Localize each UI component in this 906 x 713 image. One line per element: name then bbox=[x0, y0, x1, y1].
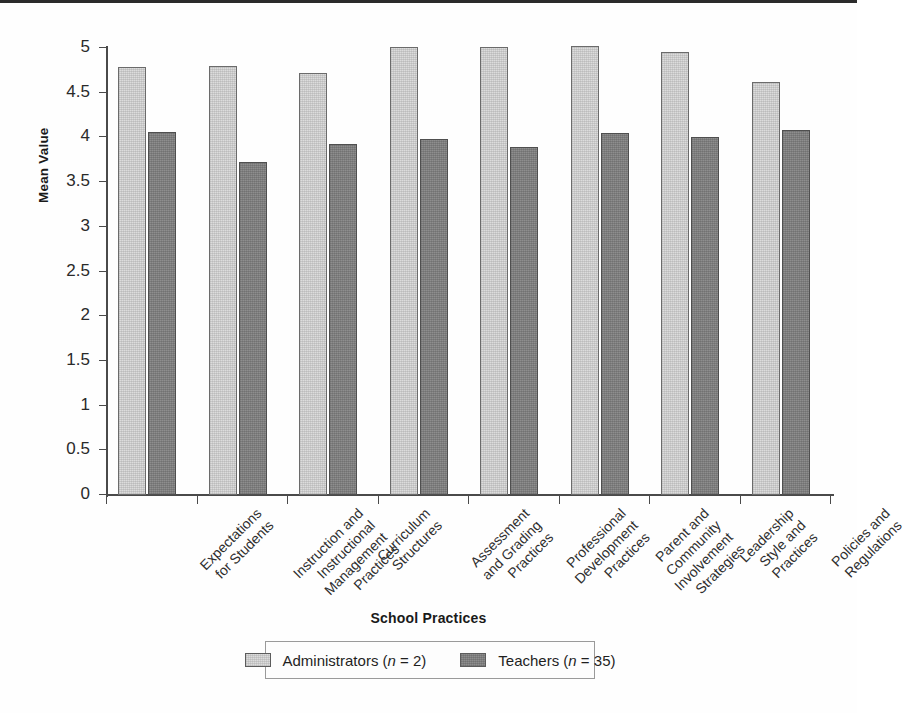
legend-entry[interactable]: Teachers (n = 35) bbox=[460, 652, 615, 669]
y-tick-label: 5 bbox=[81, 37, 90, 57]
x-category-label: Assessmentand GradingPractices bbox=[467, 505, 558, 596]
x-category-label: LeadershipStyle andPractices bbox=[736, 505, 821, 590]
x-tick bbox=[378, 495, 379, 504]
legend-swatch-admin bbox=[245, 653, 271, 667]
bar-teachers[interactable] bbox=[148, 132, 176, 495]
x-category-label: Policies andRegulations bbox=[829, 505, 906, 582]
y-tick-label: 1.5 bbox=[66, 350, 90, 370]
bar-group bbox=[390, 48, 448, 495]
bar-group bbox=[118, 48, 176, 495]
y-tick: 4.5 bbox=[99, 92, 106, 93]
bar-administrators[interactable] bbox=[661, 52, 689, 495]
bar-group bbox=[661, 48, 719, 495]
bar-administrators[interactable] bbox=[209, 66, 237, 495]
legend-swatch-teacher bbox=[460, 653, 486, 667]
bar-administrators[interactable] bbox=[390, 47, 418, 495]
chart-legend: Administrators (n = 2)Teachers (n = 35) bbox=[265, 641, 595, 679]
y-tick: 2 bbox=[99, 315, 106, 316]
y-tick-label: 0 bbox=[81, 484, 90, 504]
y-tick: 5 bbox=[99, 47, 106, 48]
bar-teachers[interactable] bbox=[691, 137, 719, 495]
bar-teachers[interactable] bbox=[329, 144, 357, 495]
y-tick: 4 bbox=[99, 136, 106, 137]
x-axis-title: School Practices bbox=[0, 610, 857, 626]
y-tick: 1 bbox=[99, 405, 106, 406]
bar-group bbox=[480, 48, 538, 495]
bar-administrators[interactable] bbox=[299, 73, 327, 495]
x-tick bbox=[740, 495, 741, 504]
y-tick-label: 2.5 bbox=[66, 261, 90, 281]
plot-area: 00.511.522.533.544.55 bbox=[106, 48, 830, 495]
x-tick bbox=[287, 495, 288, 504]
x-category-label: Parent andCommunityInvolvementStrategies bbox=[648, 505, 749, 606]
bar-group bbox=[752, 48, 810, 495]
y-tick-label: 4 bbox=[81, 126, 90, 146]
bar-group bbox=[571, 48, 629, 495]
x-tick bbox=[468, 495, 469, 504]
y-tick-label: 0.5 bbox=[66, 439, 90, 459]
legend-label: Teachers (n = 35) bbox=[498, 652, 615, 669]
x-tick bbox=[106, 495, 107, 504]
y-tick-label: 1 bbox=[81, 395, 90, 415]
y-tick: 2.5 bbox=[99, 271, 106, 272]
x-category-label: Expectationsfor Students bbox=[196, 505, 277, 586]
x-tick bbox=[197, 495, 198, 504]
y-tick-label: 2 bbox=[81, 305, 90, 325]
x-tick bbox=[830, 495, 831, 504]
x-tick bbox=[559, 495, 560, 504]
y-tick: 0.5 bbox=[99, 449, 106, 450]
bar-teachers[interactable] bbox=[510, 147, 538, 495]
y-tick-label: 3 bbox=[81, 216, 90, 236]
bar-group bbox=[209, 48, 267, 495]
y-axis-title: Mean Value bbox=[36, 127, 51, 203]
x-tick bbox=[649, 495, 650, 504]
bar-teachers[interactable] bbox=[239, 162, 267, 495]
y-tick-label: 3.5 bbox=[66, 171, 90, 191]
bar-teachers[interactable] bbox=[420, 139, 448, 495]
bar-administrators[interactable] bbox=[480, 47, 508, 495]
bar-administrators[interactable] bbox=[571, 46, 599, 495]
bar-administrators[interactable] bbox=[752, 82, 780, 495]
legend-label: Administrators (n = 2) bbox=[283, 652, 427, 669]
x-category-label: ProfessionalDevelopmentPractices bbox=[559, 505, 653, 599]
y-tick: 3.5 bbox=[99, 181, 106, 182]
bar-teachers[interactable] bbox=[601, 133, 629, 495]
y-tick: 1.5 bbox=[99, 360, 106, 361]
bar-teachers[interactable] bbox=[782, 130, 810, 495]
legend-entry[interactable]: Administrators (n = 2) bbox=[245, 652, 427, 669]
y-tick: 0 bbox=[99, 494, 106, 495]
bar-group bbox=[299, 48, 357, 495]
bar-administrators[interactable] bbox=[118, 67, 146, 495]
y-tick-label: 4.5 bbox=[66, 82, 90, 102]
y-tick: 3 bbox=[99, 226, 106, 227]
